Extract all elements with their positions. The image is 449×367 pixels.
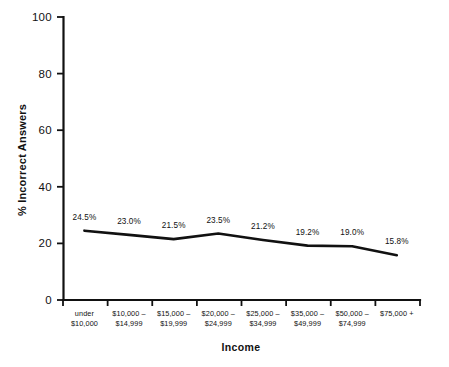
x-tick-label-3-line-1: $24,999 [205,319,232,328]
y-tick-label-0: 0 [45,294,52,306]
point-label-0: 24.5% [73,213,97,222]
x-tick-label-0-line-1: $10,000 [71,319,98,328]
point-label-7: 15.8% [385,237,409,246]
point-label-1: 23.0% [117,217,141,226]
x-tick-label-2-line-0: $15,000 – [157,309,191,318]
x-tick-label-6-line-1: $74,999 [339,319,366,328]
x-axis-title: Income [221,341,260,353]
x-tick-label-1-line-0: $10,000 – [112,309,146,318]
x-tick-label-4-line-1: $34,999 [249,319,276,328]
y-tick-group [57,17,63,300]
y-tick-label-60: 60 [39,124,52,136]
y-axis-title: % Incorrect Answers [16,104,28,216]
point-label-3: 23.5% [206,216,230,225]
point-label-5: 19.2% [296,228,320,237]
chart-figure: % Incorrect Answers 0 20 40 60 80 100 un… [0,0,449,367]
point-label-6: 19.0% [340,228,364,237]
x-tick-label-5-line-1: $49,999 [294,319,321,328]
x-tick-label-5-line-0: $35,000 – [291,309,325,318]
y-tick-labels: 0 20 40 60 80 100 [32,11,52,306]
x-tick-label-0-line-0: under [75,309,95,318]
y-tick-label-20: 20 [39,237,52,249]
x-tick-label-3-line-0: $20,000 – [202,309,236,318]
x-tick-label-2-line-1: $19,999 [160,319,187,328]
point-label-2: 21.5% [162,221,186,230]
x-tick-label-6-line-0: $50,000 – [335,309,369,318]
point-label-4: 21.2% [251,222,275,231]
line-chart-canvas: % Incorrect Answers 0 20 40 60 80 100 un… [0,0,449,367]
x-tick-label-1-line-1: $14,999 [116,319,143,328]
x-tick-label-4-line-0: $25,000 – [246,309,280,318]
y-tick-label-100: 100 [32,11,52,23]
data-point-labels: 24.5%23.0%21.5%23.5%21.2%19.2%19.0%15.8% [73,213,409,247]
x-tick-label-7-line-0: $75,000 + [380,309,414,318]
y-tick-label-80: 80 [39,68,52,80]
x-tick-labels: under$10,000$10,000 –$14,999$15,000 –$19… [71,309,414,328]
y-tick-label-40: 40 [39,181,52,193]
